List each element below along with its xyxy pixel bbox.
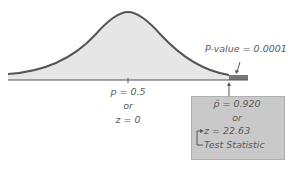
- bracket-arrow-icon: [0, 0, 306, 171]
